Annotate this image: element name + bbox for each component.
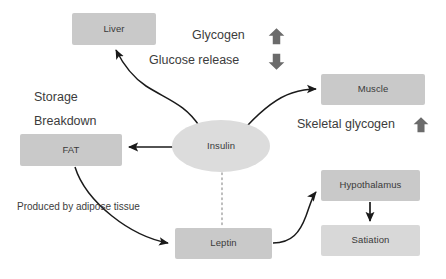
diagram-canvas: Liver FAT Insulin Muscle Leptin Hypothal… <box>0 0 446 279</box>
node-leptin-label: Leptin <box>210 238 236 248</box>
node-satiation[interactable]: Satiation <box>321 225 420 256</box>
node-leptin[interactable]: Leptin <box>175 228 272 259</box>
edge-leptin-to-hypothalamus <box>273 192 316 243</box>
label-skeletal-glycogen: Skeletal glycogen <box>297 118 395 131</box>
arrow-up-icon-skeletal-glycogen <box>413 116 429 134</box>
node-liver[interactable]: Liver <box>72 13 156 45</box>
label-glucose-release: Glucose release <box>149 54 239 67</box>
label-storage: Storage <box>34 91 78 104</box>
node-insulin-label: Insulin <box>207 141 235 151</box>
arrow-up-icon-glycogen <box>268 27 285 46</box>
arrow-down-icon-glucose-release <box>268 52 285 71</box>
node-fat[interactable]: FAT <box>20 134 122 166</box>
node-muscle-label: Muscle <box>358 84 389 94</box>
node-hypothalamus[interactable]: Hypothalamus <box>321 170 420 201</box>
node-satiation-label: Satiation <box>352 235 390 245</box>
label-breakdown: Breakdown <box>34 115 97 128</box>
label-glycogen: Glycogen <box>192 29 245 42</box>
node-insulin[interactable]: Insulin <box>172 120 270 172</box>
label-produced-by-adipose-tissue: Produced by adipose tissue <box>17 202 140 212</box>
node-fat-label: FAT <box>62 145 79 155</box>
node-hypothalamus-label: Hypothalamus <box>340 180 402 190</box>
node-liver-label: Liver <box>103 24 124 34</box>
node-muscle[interactable]: Muscle <box>321 74 425 105</box>
